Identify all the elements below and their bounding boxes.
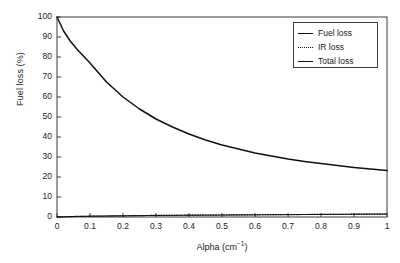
legend-item-total-loss: Total loss	[294, 54, 377, 68]
x-tick-label-1: 0.1	[75, 221, 105, 231]
legend-item-label: Fuel loss	[318, 28, 352, 38]
legend-item-ir-loss: IR loss	[294, 40, 377, 54]
chart-figure: 0102030405060708090100 00.10.20.30.40.50…	[0, 0, 400, 263]
x-tick-label-0: 0	[42, 221, 72, 231]
legend-line-glyph	[298, 33, 313, 34]
x-tick-label-8: 0.8	[306, 221, 336, 231]
x-tick-label-4: 0.4	[174, 221, 204, 231]
x-tick-label-2: 0.2	[108, 221, 138, 231]
x-tick-label-3: 0.3	[141, 221, 171, 231]
y-axis-title: Fuel loss (%)	[15, 19, 25, 139]
chart-legend: Fuel lossIR lossTotal loss	[293, 22, 378, 68]
legend-item-label: IR loss	[318, 42, 344, 52]
legend-item-label: Total loss	[318, 56, 353, 66]
legend-line-sample-icon	[298, 43, 313, 51]
x-tick-label-5: 0.5	[207, 221, 237, 231]
x-tick-label-10: 1	[372, 221, 400, 231]
x-tick-label-6: 0.6	[240, 221, 270, 231]
x-axis-title: Alpha (cm−1)	[57, 240, 387, 252]
x-tick-label-9: 0.9	[339, 221, 369, 231]
legend-line-glyph	[298, 61, 313, 62]
legend-line-sample-icon	[298, 57, 313, 65]
legend-line-glyph	[298, 47, 313, 48]
x-tick-label-7: 0.7	[273, 221, 303, 231]
x-axis-title-base: Alpha (cm	[197, 242, 238, 252]
legend-line-sample-icon	[298, 29, 313, 37]
legend-item-fuel-loss: Fuel loss	[294, 26, 377, 40]
x-axis-title-tail: )	[244, 242, 247, 252]
